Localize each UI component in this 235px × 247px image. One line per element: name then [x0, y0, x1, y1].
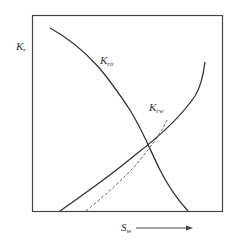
- y-axis-label: Kr: [16, 41, 26, 54]
- krw-label: Krw: [149, 102, 164, 115]
- kro-label: Kro: [100, 55, 113, 68]
- krw-curve: [60, 62, 205, 211]
- plot-frame: [33, 16, 223, 212]
- kro-curve: [50, 28, 188, 211]
- relative-permeability-chart: [0, 0, 235, 247]
- x-axis-label: Sw: [121, 222, 131, 235]
- x-axis-arrowhead: [186, 226, 193, 231]
- krw-dashed-curve: [86, 120, 167, 211]
